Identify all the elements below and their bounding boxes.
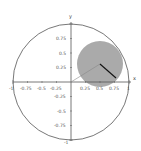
y-tick-label: -0.5 xyxy=(57,109,66,114)
x-tick-label: 1 xyxy=(127,86,130,91)
x-tick-label: 0.5 xyxy=(96,86,103,91)
x-tick-label: -0.25 xyxy=(50,86,62,91)
y-tick-label: 0.25 xyxy=(56,65,66,70)
x-axis-label: x xyxy=(133,75,136,81)
y-tick-label: -1 xyxy=(64,140,69,145)
y-tick-label: 0.75 xyxy=(56,36,66,41)
y-tick-label: 0.5 xyxy=(59,51,66,56)
y-axis-label: y xyxy=(69,13,72,20)
x-tick-label: 0.75 xyxy=(109,86,119,91)
x-tick-label: 0.25 xyxy=(80,86,90,91)
y-tick-label: -0.75 xyxy=(54,123,66,128)
x-tick-label: -0.5 xyxy=(37,86,46,91)
plot-canvas: y x -1 -0.75 -0.5 -0.25 0.25 0.5 0.75 1 … xyxy=(0,0,141,151)
x-tick-label: -0.75 xyxy=(20,86,32,91)
y-tick-label: -0.25 xyxy=(54,94,66,99)
x-tick-label: -1 xyxy=(9,86,14,91)
